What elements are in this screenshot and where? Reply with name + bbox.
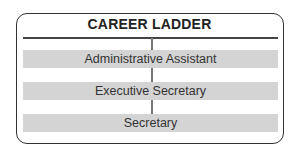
ladder-step-executive-secretary: Executive Secretary <box>23 82 278 100</box>
diagram-title: CAREER LADDER <box>0 16 299 32</box>
ladder-step-secretary: Secretary <box>23 114 278 132</box>
connector-line <box>151 38 153 50</box>
ladder-step-administrative-assistant: Administrative Assistant <box>23 50 278 68</box>
connector-line <box>151 100 153 114</box>
connector-line <box>151 68 153 82</box>
